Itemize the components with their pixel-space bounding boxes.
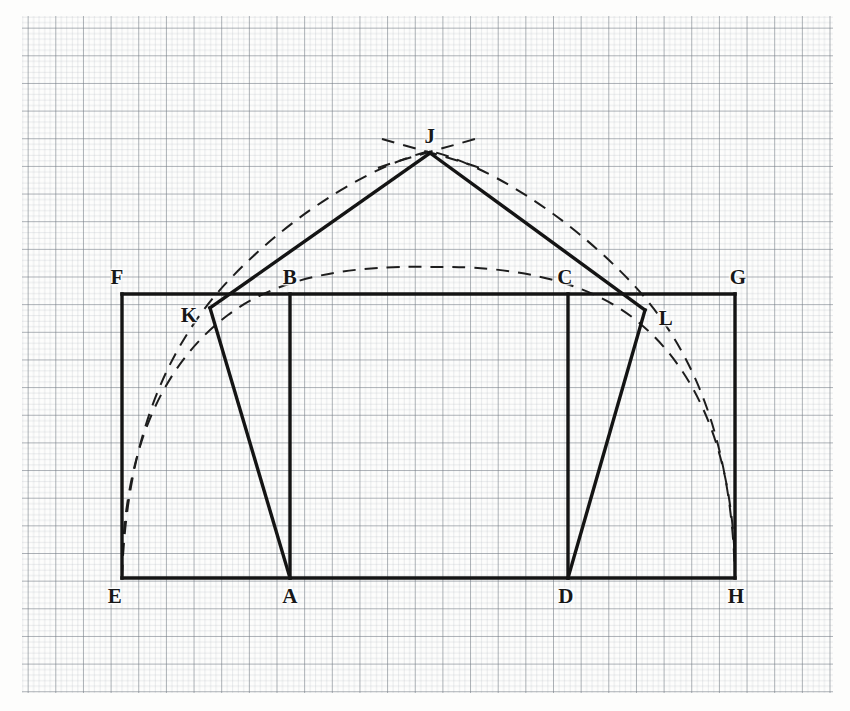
vertex-label-l: L [659, 308, 673, 329]
vertex-label-d: D [558, 586, 573, 607]
vertex-label-b: B [283, 267, 297, 288]
vertex-label-h: H [728, 586, 745, 607]
figure-page: ABCDEFGHJKL [0, 0, 850, 711]
geometry-figure [0, 0, 850, 711]
vertex-label-j: J [425, 126, 436, 147]
vertex-label-c: C [557, 267, 572, 288]
vertex-label-a: A [282, 586, 297, 607]
vertex-label-f: F [110, 267, 123, 288]
vertex-label-g: G [730, 267, 747, 288]
graph-paper-grid [22, 16, 833, 693]
vertex-label-e: E [108, 586, 122, 607]
vertex-label-k: K [181, 305, 198, 326]
